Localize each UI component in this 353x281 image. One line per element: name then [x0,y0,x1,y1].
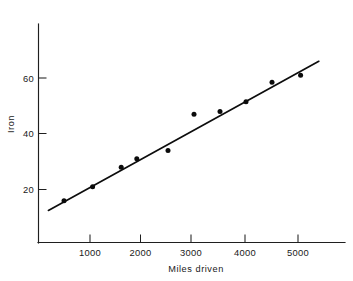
regression-line [48,61,318,210]
x-axis-ticks [90,235,298,243]
x-tick-label-1000: 1000 [79,247,101,258]
y-tick-label-20: 20 [23,184,34,195]
data-point [134,156,139,161]
y-axis-ticks [39,78,47,190]
data-point [119,165,124,170]
chart-figure: 60 40 20 1000 2000 3000 4000 5000 Miles … [0,0,353,281]
y-tick-label-60: 60 [23,73,34,84]
x-tick-label-2000: 2000 [129,247,151,258]
scatter-plot-svg: 60 40 20 1000 2000 3000 4000 5000 Miles … [0,0,353,281]
data-point [166,148,171,153]
y-axis-title: Iron [6,115,16,133]
x-axis-title: Miles driven [168,264,224,274]
y-tick-label-40: 40 [23,128,34,139]
data-point [218,109,223,114]
x-tick-label-4000: 4000 [234,247,256,258]
x-tick-label-5000: 5000 [287,247,309,258]
data-point [90,184,95,189]
x-tick-label-3000: 3000 [180,247,202,258]
data-point [192,112,197,117]
data-point [62,198,67,203]
data-point [298,73,303,78]
data-point [270,80,275,85]
data-point [244,99,249,104]
